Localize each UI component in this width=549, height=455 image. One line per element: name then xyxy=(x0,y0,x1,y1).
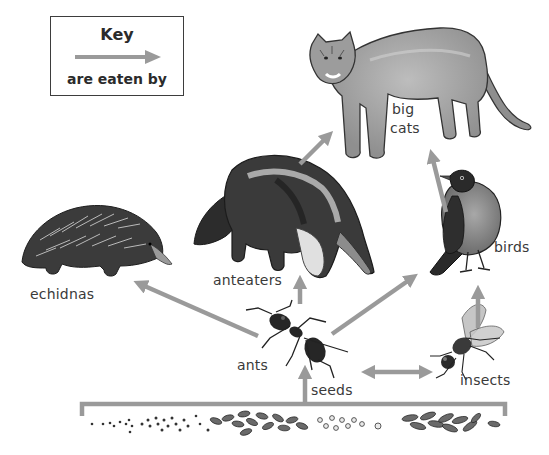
arrow-ants-to-echidnas xyxy=(140,284,258,336)
seeds-illustration xyxy=(91,410,501,436)
legend-title: Key xyxy=(51,25,183,44)
fly-illustration xyxy=(430,304,504,380)
arrow-ants-to-birds xyxy=(332,278,412,334)
anteater-illustration xyxy=(194,155,374,277)
label-birds: birds xyxy=(494,239,529,255)
arrow-birds-to-big-cats xyxy=(432,156,446,212)
echidna-illustration xyxy=(22,205,172,276)
legend-caption: are eaten by xyxy=(51,71,183,87)
label-ants: ants xyxy=(237,357,268,373)
legend-key: Key are eaten by xyxy=(50,16,184,96)
arrow-anteaters-to-big-cats xyxy=(300,136,328,164)
label-big: big xyxy=(392,101,414,117)
big-cat-illustration xyxy=(310,28,531,158)
seeds-bracket xyxy=(82,398,505,416)
food-web-diagram: Key are eaten by big cats anteaters echi… xyxy=(0,0,549,455)
label-echidnas: echidnas xyxy=(30,286,94,302)
arrow-right-icon xyxy=(75,50,161,64)
label-seeds: seeds xyxy=(311,382,353,398)
label-insects: insects xyxy=(460,372,511,388)
label-cats: cats xyxy=(390,120,420,136)
label-anteaters: anteaters xyxy=(213,272,282,288)
